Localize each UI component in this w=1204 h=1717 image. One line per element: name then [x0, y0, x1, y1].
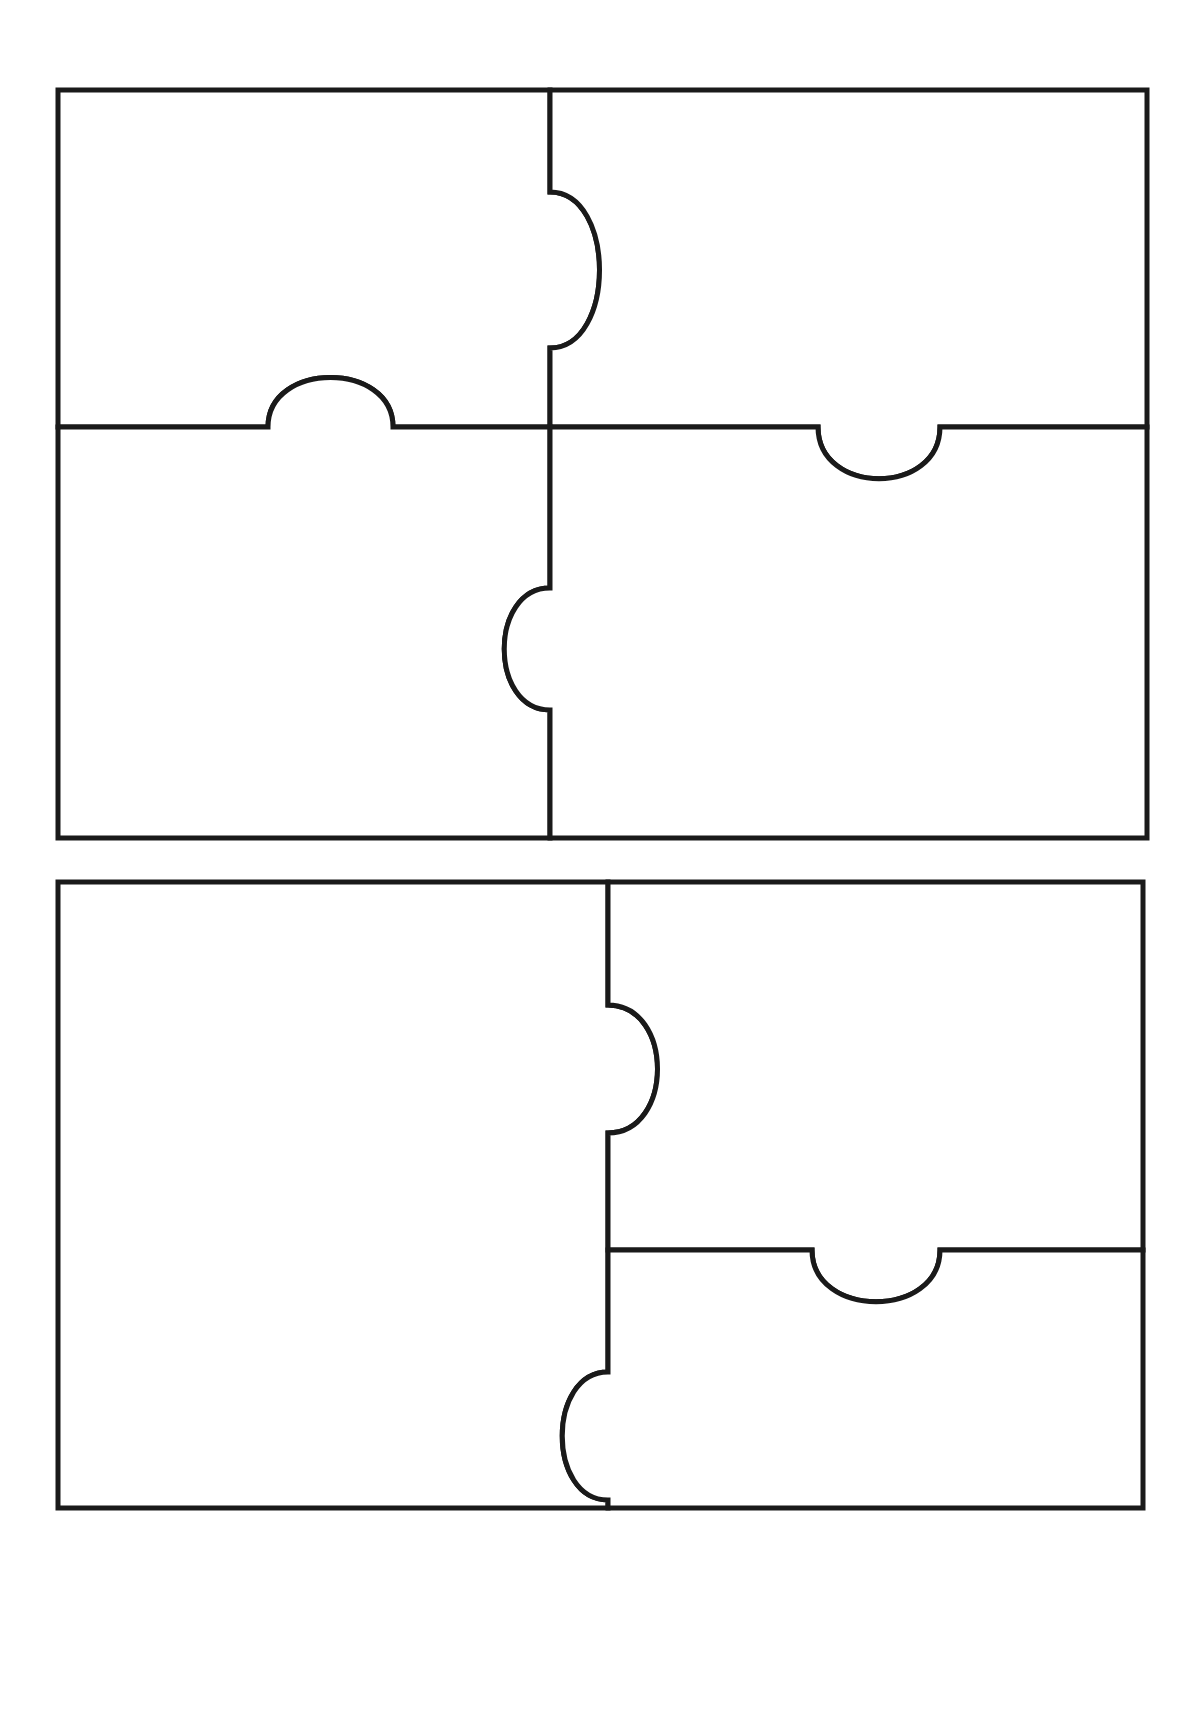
lower-top-right-piece[interactable] — [608, 882, 1143, 1302]
upper-top-right-piece[interactable] — [550, 90, 1147, 479]
upper-bottom-left-piece[interactable] — [58, 378, 550, 839]
puzzle-canvas — [0, 0, 1204, 1717]
lower-puzzle — [58, 882, 1143, 1508]
upper-puzzle — [58, 90, 1147, 838]
worksheet-page — [0, 0, 1204, 1717]
upper-bottom-right-piece[interactable] — [504, 427, 1147, 838]
